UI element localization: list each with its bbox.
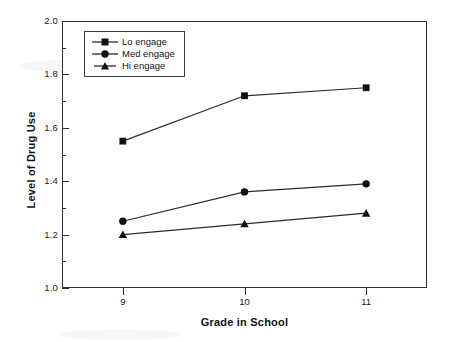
data-point-marker [363,84,370,91]
y-axis-tick [62,181,69,182]
y-axis-tick [62,235,69,236]
legend-item: Med engage [90,48,175,60]
legend-marker-square-icon [90,36,120,48]
legend-marker-circle-icon [90,48,120,60]
data-point-marker [119,218,126,225]
legend-item-label: Lo engage [120,37,167,47]
data-series [119,84,369,144]
x-axis-tick [366,288,367,295]
y-axis-title: Level of Drug Use [25,80,37,240]
y-axis-minor-tick [62,261,66,262]
data-point-marker [241,92,248,99]
x-axis-tick-label: 11 [346,297,386,307]
y-axis-minor-tick [62,48,66,49]
legend-item-label: Hi engage [120,61,165,71]
data-point-marker [241,188,248,195]
scan-artifact [60,330,180,340]
x-axis-tick-label: 10 [225,297,265,307]
x-axis-tick-label: 9 [103,297,143,307]
legend-item: Lo engage [90,36,175,48]
data-point-marker [119,138,126,145]
y-axis-tick-label: 2.0 [28,16,58,26]
data-series [119,180,370,225]
chart-figure: 2.01.81.61.41.21.0 91011 Grade in School… [0,0,459,342]
legend-item-label: Med engage [120,49,175,59]
y-axis-minor-tick [62,101,66,102]
y-axis-tick [62,74,69,75]
data-point-marker [362,180,369,187]
y-axis-minor-tick [62,208,66,209]
chart-legend: Lo engage Med engage Hi engage [84,31,185,77]
data-point-marker [362,209,370,217]
x-axis-title: Grade in School [62,316,427,328]
x-axis-tick [123,288,124,295]
legend-item: Hi engage [90,60,175,72]
y-axis-minor-tick [62,155,66,156]
y-axis-tick [62,21,69,22]
y-axis-tick-label: 1.8 [28,69,58,79]
y-axis-tick [62,128,69,129]
y-axis-tick-label: 1.0 [28,283,58,293]
y-axis-tick [62,288,69,289]
x-axis-tick [245,288,246,295]
legend-marker-triangle-icon [90,60,120,72]
